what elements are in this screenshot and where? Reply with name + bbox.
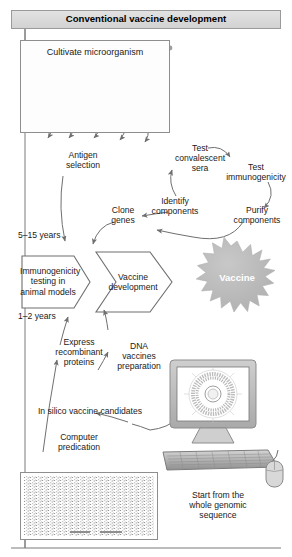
vaccine-star-label: Vaccine [206, 272, 268, 283]
computer-monitor-icon [170, 360, 256, 443]
page-title: Conventional vaccine development [11, 13, 281, 24]
purify-components-label: Purify components [228, 205, 286, 225]
figure-canvas: Conventional vaccine development Cultiva… [0, 0, 292, 557]
timescale-5-15-years-label: 5–15 years [18, 230, 78, 240]
cultivate-microorganism-label: Cultivate microorganism [20, 47, 170, 57]
start-from-genome-label: Start from the whole genomic sequence [178, 490, 258, 521]
antigen-selection-label: Antigen selection [57, 150, 109, 170]
identify-components-label: Identify components [146, 196, 204, 216]
express-recombinant-proteins-label: Express recombinant proteins [48, 337, 110, 368]
lower-arrows [43, 310, 178, 452]
dna-vaccines-preparation-label: DNA vaccines preparation [112, 341, 166, 372]
immunogenicity-testing-label: Immunogenicity testing in animal models [20, 266, 76, 297]
keyboard-icon [163, 450, 278, 470]
timescale-1-2-years-label: 1–2 years [18, 311, 74, 321]
clone-genes-label: Clone genes [104, 205, 142, 225]
test-immunogenicity-label: Test immunogenicity [222, 162, 290, 182]
identify-to-sera-arrow [171, 170, 176, 196]
sequence-noise [24, 476, 154, 536]
computer-predication-label: Computer predication [48, 432, 110, 452]
genomic-sequence-panel-icon [20, 472, 158, 540]
vaccine-development-label: Vaccine development [104, 272, 162, 293]
in-silico-candidates-label: In silico vaccine candidates [30, 406, 150, 416]
